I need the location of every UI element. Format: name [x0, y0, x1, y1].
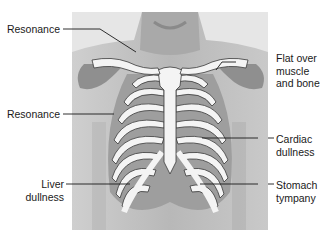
percussion-diagram: Resonance Resonance Liver dullness Flat …	[0, 0, 333, 242]
label-resonance-upper: Resonance	[2, 23, 60, 36]
label-stomach-tympany: Stomach tympany	[276, 179, 332, 204]
label-flat-over-muscle-and-bone: Flat over muscle and bone	[276, 52, 332, 90]
outer-leader-lines	[0, 0, 333, 242]
label-resonance-mid: Resonance	[2, 108, 60, 121]
label-cardiac-dullness: Cardiac dullness	[276, 133, 332, 158]
label-liver-dullness: Liver dullness	[2, 178, 64, 203]
